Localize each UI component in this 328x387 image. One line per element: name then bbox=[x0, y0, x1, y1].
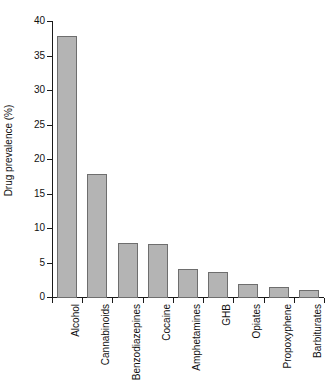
y-tick-label: 5 bbox=[39, 257, 45, 268]
y-tick-mark bbox=[47, 21, 52, 22]
y-tick-label: 30 bbox=[34, 84, 45, 95]
x-label-text: Benzodiazepines bbox=[132, 304, 142, 380]
y-tick-label: 20 bbox=[34, 153, 45, 164]
x-label-text: Cannabinoids bbox=[101, 304, 111, 365]
x-tick-mark bbox=[324, 298, 325, 303]
y-tick-mark bbox=[47, 263, 52, 264]
x-tick-mark bbox=[203, 298, 204, 303]
y-tick-mark bbox=[47, 194, 52, 195]
bar-amphetamines bbox=[178, 269, 198, 298]
bar-ghb bbox=[208, 272, 228, 298]
bar-cocaine bbox=[148, 244, 168, 298]
x-label-text: Alcohol bbox=[71, 304, 81, 337]
x-label-text: Barbiturates bbox=[313, 304, 323, 358]
x-label-text: Amphetamines bbox=[192, 304, 202, 371]
x-tick-mark bbox=[294, 298, 295, 303]
bar-propoxyphene bbox=[269, 287, 289, 298]
x-label-text: Cocaine bbox=[162, 304, 172, 341]
bar-cannabinoids bbox=[87, 174, 107, 298]
bar-alcohol bbox=[57, 36, 77, 298]
y-axis-line bbox=[52, 21, 53, 298]
y-tick-label: 15 bbox=[34, 188, 45, 199]
x-label-text: GHB bbox=[222, 304, 232, 326]
x-axis-category-labels: AlcoholCannabinoidsBenzodiazepinesCocain… bbox=[52, 304, 324, 387]
x-label-text: Opiates bbox=[252, 304, 262, 338]
x-tick-mark bbox=[173, 298, 174, 303]
x-tick-mark bbox=[52, 298, 53, 303]
x-tick-mark bbox=[264, 298, 265, 303]
y-tick-label: 35 bbox=[34, 50, 45, 61]
x-tick-mark bbox=[143, 298, 144, 303]
y-tick-label: 10 bbox=[34, 222, 45, 233]
y-tick-label: 0 bbox=[39, 291, 45, 302]
y-tick-mark bbox=[47, 90, 52, 91]
y-axis-title: Drug prevalence (%) bbox=[0, 0, 18, 300]
x-tick-mark bbox=[82, 298, 83, 303]
x-tick-mark bbox=[112, 298, 113, 303]
y-tick-mark bbox=[47, 56, 52, 57]
y-tick-label: 25 bbox=[34, 119, 45, 130]
y-tick-mark bbox=[47, 159, 52, 160]
x-tick-mark bbox=[233, 298, 234, 303]
bar-barbiturates bbox=[299, 290, 319, 298]
x-label-text: Propoxyphene bbox=[283, 304, 293, 369]
plot-area: 0510152025303540 bbox=[52, 14, 324, 304]
y-axis-title-text: Drug prevalence (%) bbox=[4, 104, 15, 196]
y-tick-label: 40 bbox=[34, 15, 45, 26]
y-tick-mark bbox=[47, 125, 52, 126]
bar-opiates bbox=[238, 284, 258, 298]
y-tick-mark bbox=[47, 228, 52, 229]
bar-benzodiazepines bbox=[118, 243, 138, 298]
bar-chart-figure: Drug prevalence (%) 0510152025303540 Alc… bbox=[0, 0, 328, 387]
